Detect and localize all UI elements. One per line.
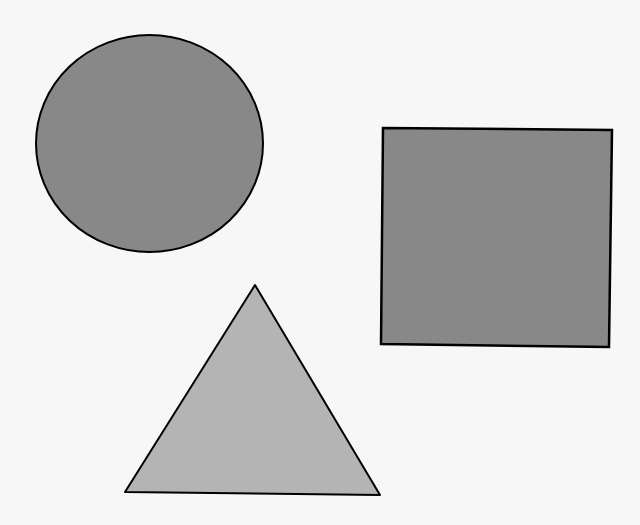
shapes-canvas bbox=[0, 0, 640, 525]
circle-shape bbox=[36, 35, 263, 252]
shapes-svg bbox=[0, 0, 640, 525]
square-shape bbox=[381, 128, 612, 347]
triangle-shape bbox=[125, 285, 380, 495]
